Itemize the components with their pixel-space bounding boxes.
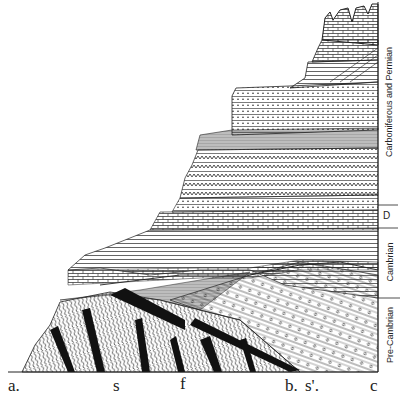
cross-section-figure [0,0,403,396]
summit-pinnacles [322,4,378,45]
period-label-carboniferous-permian: Carboniferous and Permian [384,43,394,161]
location-label-s-prime: s'. [305,376,319,396]
limestone-beds [180,148,378,198]
location-label-f: f [180,374,186,394]
upper-carboniferous [312,40,378,62]
location-label-a: a. [8,376,20,396]
period-label-d: D [383,210,390,221]
devonian-band [150,210,378,230]
middle-carboniferous-shelf [232,82,378,135]
period-label-pre-cambrian: Pre-Cambrian [385,300,395,370]
location-label-b: b. [285,376,298,396]
location-label-s: s [113,376,120,396]
period-label-cambrian: Cambrian [385,232,395,292]
location-label-c: c [370,376,378,396]
